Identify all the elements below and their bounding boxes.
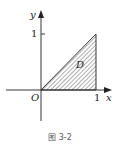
region-d: [41, 34, 96, 90]
y-tick-label-1: 1: [31, 29, 37, 39]
y-axis-label: y: [30, 10, 36, 20]
y-axis-arrow-icon: [38, 10, 44, 18]
x-axis-label: x: [106, 93, 112, 103]
origin-label: O: [31, 93, 39, 103]
diagram-canvas: [0, 0, 120, 148]
figure-caption: 图 3-2: [0, 134, 120, 142]
x-tick-label-1: 1: [94, 93, 100, 103]
region-label-d: D: [76, 60, 84, 70]
